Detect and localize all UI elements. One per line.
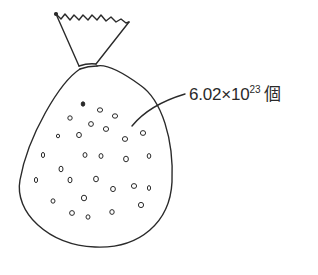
label-times-sign: × <box>221 85 231 104</box>
label-base: 10 <box>231 85 250 104</box>
particles <box>34 102 150 219</box>
bag-diagram <box>0 0 318 275</box>
bag-knot <box>79 64 97 69</box>
label-unit: 個 <box>264 84 281 104</box>
label-exponent: 23 <box>250 84 261 95</box>
bag-body <box>19 66 172 247</box>
avogadro-number-label: 6.02×1023個 <box>189 80 281 105</box>
leader-line <box>132 94 185 126</box>
label-mantissa: 6.02 <box>189 85 221 104</box>
bag-top-frill <box>55 13 129 66</box>
